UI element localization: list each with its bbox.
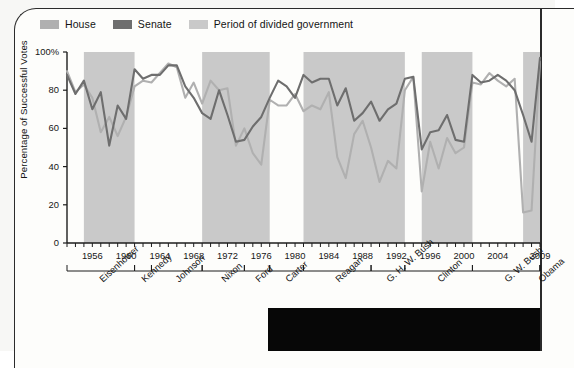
y-tick-label: 80	[25, 84, 59, 95]
y-tick-label: 100%	[25, 46, 59, 57]
y-tick-label: 40	[25, 161, 59, 172]
president-bracket	[304, 265, 372, 271]
divided-government-band	[202, 52, 270, 243]
divided-government-band	[84, 52, 135, 243]
y-tick-label: 0	[25, 237, 59, 248]
y-tick-label: 20	[25, 199, 59, 210]
x-tick-label: 2004	[477, 250, 519, 261]
president-bracket	[472, 265, 540, 271]
y-tick-label: 60	[25, 122, 59, 133]
scan-black-bar	[268, 308, 540, 351]
